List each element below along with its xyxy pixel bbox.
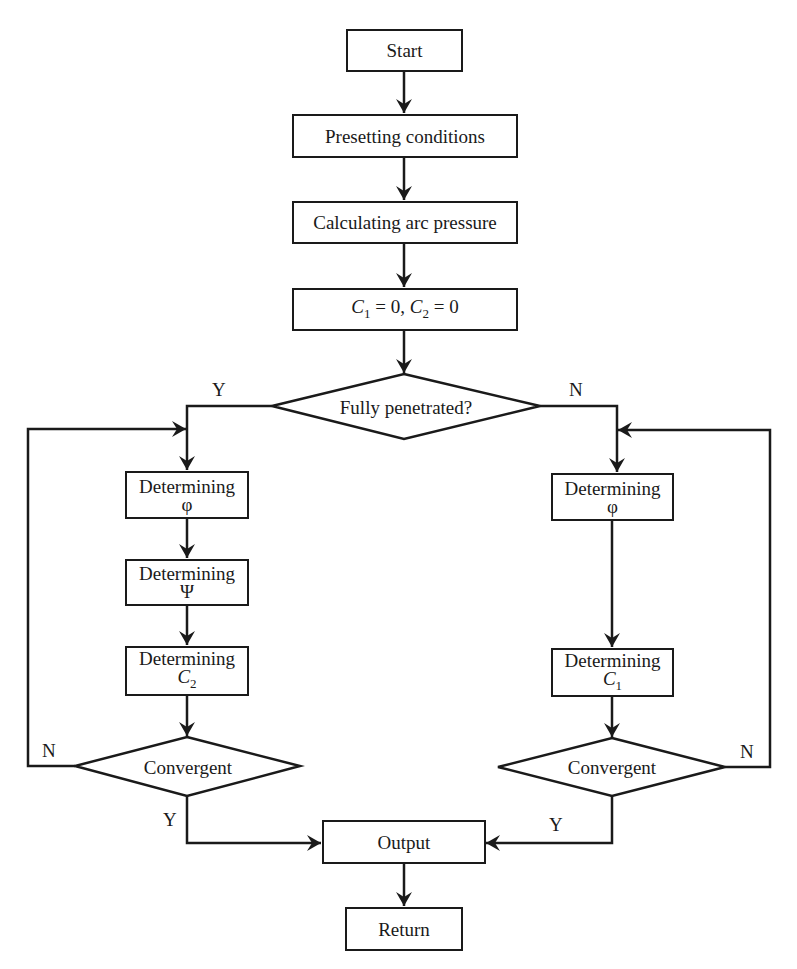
psi-symbol: Ψ	[180, 583, 194, 601]
right-convergent-decision: Convergent	[568, 758, 656, 777]
c2-symbol: C2	[177, 668, 196, 693]
calculating-label: Calculating arc pressure	[313, 213, 497, 232]
phi-symbol: φ	[607, 498, 618, 516]
left-conv-yes-label: Y	[163, 810, 177, 829]
output-node: Output	[322, 820, 486, 864]
right-determining-c1-node: Determining C1	[551, 648, 674, 697]
left-determining-c2-node: Determining C2	[125, 646, 249, 696]
left-conv-no-label: N	[42, 741, 56, 760]
c1-symbol: C1	[603, 670, 622, 695]
start-node: Start	[346, 29, 463, 72]
node-label: Determining	[564, 479, 660, 498]
right-conv-no-label: N	[740, 742, 754, 761]
presetting-label: Presetting conditions	[325, 127, 485, 146]
return-label: Return	[378, 920, 430, 939]
right-conv-yes-label: Y	[549, 815, 563, 834]
edge-label-yes: Y	[212, 380, 226, 399]
return-node: Return	[345, 907, 463, 951]
edge-label-no: N	[569, 380, 583, 399]
calculating-arc-pressure-node: Calculating arc pressure	[292, 201, 518, 244]
init-constants-node: C1 = 0, C2 = 0	[292, 288, 518, 331]
left-determining-psi-node: Determining Ψ	[125, 559, 249, 606]
phi-symbol: φ	[182, 496, 193, 514]
start-label: Start	[387, 41, 423, 60]
output-label: Output	[378, 833, 431, 852]
presetting-conditions-node: Presetting conditions	[292, 114, 518, 158]
init-label: C1 = 0, C2 = 0	[351, 297, 458, 323]
fully-penetrated-decision: Fully penetrated?	[340, 398, 472, 417]
right-determining-phi-node: Determining φ	[551, 473, 674, 521]
node-label: Determining	[139, 477, 235, 496]
left-convergent-decision: Convergent	[144, 758, 232, 777]
left-determining-phi-node: Determining φ	[125, 471, 249, 519]
